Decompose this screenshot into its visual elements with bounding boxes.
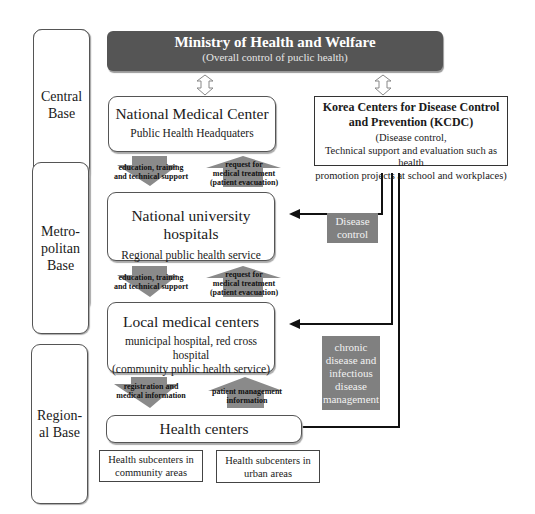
ministry-box: Ministry of Health and Welfare (Overall … xyxy=(107,31,443,71)
flow-label-education-1: education, training and technical suppor… xyxy=(106,163,196,181)
flow-label-registration: registration and medical information xyxy=(106,382,196,400)
disease-control-label: Diseasecontrol xyxy=(327,213,378,243)
node-health-centers: Health centers xyxy=(106,415,302,443)
flow-label-request-2: request for medical treatment (patient e… xyxy=(204,270,284,297)
flow-label-request-1: request for medical treatment (patient e… xyxy=(204,160,284,187)
level-metropolitan-base: Metro-politanBase xyxy=(32,162,89,334)
node-national-medical-center: National Medical Center Public Health He… xyxy=(108,96,276,152)
subcenter-urban: Health subcenters inurban areas xyxy=(216,450,320,483)
flow-label-education-2: education, training and technical suppor… xyxy=(106,273,196,291)
subcenter-community: Health subcenters incommunity areas xyxy=(99,450,203,482)
double-arrow-icon xyxy=(375,75,391,95)
level-regional-base: Region-al Base xyxy=(31,344,88,504)
node-national-university-hospitals: National university hospitals Regional p… xyxy=(107,192,275,261)
node-local-medical-centers: Local medical centers municipal hospital… xyxy=(107,302,275,373)
level-central-base: CentralBase xyxy=(33,29,90,181)
flow-label-patient-management: patient management information xyxy=(204,387,290,405)
kcdc-box: Korea Centers for Disease Control and Pr… xyxy=(314,96,508,166)
arrowhead-icon xyxy=(289,209,300,219)
arrowhead-icon xyxy=(289,319,300,329)
chronic-disease-label: chronic disease and infectious disease m… xyxy=(322,336,380,410)
double-arrow-icon xyxy=(197,75,213,95)
ministry-title: Ministry of Health and Welfare xyxy=(107,34,443,51)
kcdc-to-lmc-line xyxy=(298,173,392,324)
ministry-subtitle: (Overall control of puclic health) xyxy=(107,51,443,63)
